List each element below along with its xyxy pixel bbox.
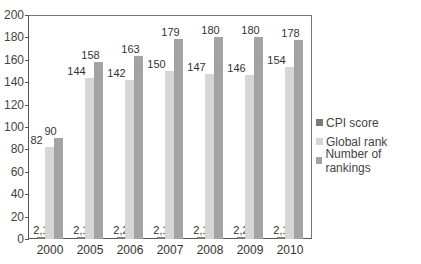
- y-tick-mark: [25, 37, 29, 38]
- y-tick-mark: [25, 15, 29, 16]
- y-tick-mark: [25, 82, 29, 83]
- bar-cpi-score: [37, 237, 45, 239]
- data-label: 147: [182, 62, 212, 73]
- y-tick-mark: [25, 60, 29, 61]
- y-tick-label: 40: [0, 188, 24, 200]
- bar-number-of-rankings: [94, 62, 103, 239]
- data-label: 180: [196, 25, 226, 36]
- bar-cpi-score: [277, 237, 285, 239]
- y-tick-label: 0: [0, 233, 24, 245]
- data-label: 146: [222, 63, 252, 74]
- legend-label: CPI score: [326, 116, 379, 130]
- bar-cpi-score: [117, 237, 125, 239]
- data-label: 144: [62, 66, 92, 77]
- bar-global-rank: [45, 147, 54, 239]
- data-label: 150: [142, 59, 172, 70]
- bar-cpi-score: [157, 237, 165, 239]
- legend-swatch-cpi-score: [316, 119, 323, 126]
- y-tick-label: 120: [0, 99, 24, 111]
- y-tick-mark: [25, 217, 29, 218]
- y-tick-mark: [25, 127, 29, 128]
- y-tick-label: 180: [0, 31, 24, 43]
- data-label: 158: [76, 50, 106, 61]
- y-tick-label: 60: [0, 166, 24, 178]
- x-tick-label: 2000: [30, 243, 70, 257]
- data-label: 90: [36, 126, 66, 137]
- legend-item-number-of-rankings: Number of rankings: [316, 151, 421, 170]
- data-label: 142: [102, 68, 132, 79]
- x-tick-label: 2007: [150, 243, 190, 257]
- bar-number-of-rankings: [54, 138, 63, 239]
- y-tick-label: 140: [0, 76, 24, 88]
- bar-number-of-rankings: [294, 40, 303, 239]
- bar-chart: 020406080100120140160180200 2,182902,114…: [0, 0, 421, 264]
- bar-global-rank: [245, 75, 254, 239]
- legend-item-cpi-score: CPI score: [316, 113, 421, 132]
- legend-label: Number of rankings: [325, 147, 421, 175]
- legend-swatch-number-of-rankings: [316, 157, 322, 164]
- y-tick-mark: [25, 172, 29, 173]
- legend: CPI score Global rank Number of rankings: [316, 113, 421, 170]
- data-label: 180: [236, 25, 266, 36]
- data-label: 178: [276, 28, 306, 39]
- y-tick-label: 20: [0, 211, 24, 223]
- y-tick-label: 80: [0, 143, 24, 155]
- data-label: 163: [116, 44, 146, 55]
- data-label: 154: [262, 55, 292, 66]
- y-tick-label: 160: [0, 54, 24, 66]
- bar-global-rank: [85, 78, 94, 239]
- y-tick-mark: [25, 194, 29, 195]
- y-tick-mark: [25, 105, 29, 106]
- bar-number-of-rankings: [134, 56, 143, 239]
- bar-cpi-score: [237, 237, 245, 239]
- data-label: 179: [156, 27, 186, 38]
- y-tick-mark: [25, 239, 29, 240]
- bar-number-of-rankings: [254, 37, 263, 239]
- bar-cpi-score: [197, 237, 205, 239]
- bar-global-rank: [165, 71, 174, 239]
- bar-cpi-score: [77, 237, 85, 239]
- x-tick-label: 2010: [270, 243, 310, 257]
- legend-swatch-global-rank: [316, 138, 323, 145]
- y-tick-mark: [25, 149, 29, 150]
- y-tick-label: 200: [0, 9, 24, 21]
- bar-global-rank: [205, 74, 214, 239]
- x-tick-label: 2009: [230, 243, 270, 257]
- y-tick-label: 100: [0, 121, 24, 133]
- x-tick-label: 2005: [70, 243, 110, 257]
- x-tick-label: 2008: [190, 243, 230, 257]
- bar-global-rank: [125, 80, 134, 239]
- bar-global-rank: [285, 67, 294, 239]
- x-tick-label: 2006: [110, 243, 150, 257]
